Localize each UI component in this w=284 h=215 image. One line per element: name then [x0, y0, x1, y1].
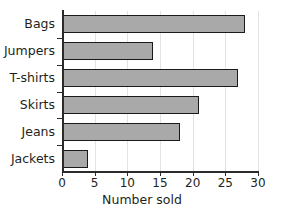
bar-bags: [62, 15, 245, 33]
category-label-skirts: Skirts: [0, 99, 55, 112]
bar-skirts: [62, 96, 199, 114]
gridline: [225, 11, 226, 172]
gridline: [95, 11, 96, 172]
y-axis-line: [62, 10, 64, 173]
x-tick-label: 5: [80, 177, 110, 189]
category-label-jackets: Jackets: [0, 153, 55, 166]
bar-t-shirts: [62, 69, 238, 87]
x-tick-label: 30: [243, 177, 273, 189]
category-label-t-shirts: T-shirts: [0, 72, 55, 85]
category-label-bags: Bags: [0, 18, 55, 31]
category-label-jumpers: Jumpers: [0, 45, 55, 58]
x-tick-label: 0: [47, 177, 77, 189]
x-axis-title: Number sold: [0, 194, 284, 207]
y-tick: [57, 65, 62, 66]
y-tick: [57, 145, 62, 146]
y-tick: [57, 38, 62, 39]
category-label-jeans: Jeans: [0, 126, 55, 139]
bar-jeans: [62, 123, 180, 141]
plot-area: [62, 11, 258, 172]
x-tick-label: 15: [145, 177, 175, 189]
gridline: [193, 11, 194, 172]
bar-jumpers: [62, 42, 153, 60]
y-tick: [57, 92, 62, 93]
gridline: [160, 11, 161, 172]
x-tick-label: 25: [210, 177, 240, 189]
gridline: [258, 11, 259, 172]
gridline: [127, 11, 128, 172]
x-tick-label: 20: [178, 177, 208, 189]
y-tick: [57, 118, 62, 119]
bar-jackets: [62, 150, 88, 168]
x-tick-label: 10: [112, 177, 142, 189]
bar-chart: 051015202530 BagsJumpersT-shirtsSkirtsJe…: [0, 0, 284, 215]
